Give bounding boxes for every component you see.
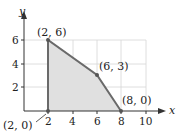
x-axis-label: x	[169, 104, 176, 117]
x-tick-8: 8	[118, 115, 125, 127]
vertex-label-6-3: (6, 3)	[99, 60, 129, 73]
feasible-region	[48, 40, 121, 111]
vertex-label-2-6: (2, 6)	[37, 26, 67, 39]
x-tick-2: 2	[45, 115, 52, 127]
y-tick-6: 6	[12, 34, 19, 46]
x-tick-4: 4	[69, 115, 76, 127]
y-tick-2: 2	[12, 81, 19, 93]
x-axis-arrow-icon	[158, 108, 166, 114]
y-axis-label: y	[18, 5, 26, 18]
y-tick-4: 4	[12, 58, 19, 70]
chart: y x 2 4 6 8 10 2 4 6 (2, 6) (6, 3) (8, 0…	[0, 0, 181, 139]
x-tick-6: 6	[94, 115, 101, 127]
x-tick-10: 10	[139, 115, 152, 127]
vertex-label-8-0: (8, 0)	[122, 94, 152, 107]
vertex-label-2-0: (2, 0)	[3, 119, 33, 132]
